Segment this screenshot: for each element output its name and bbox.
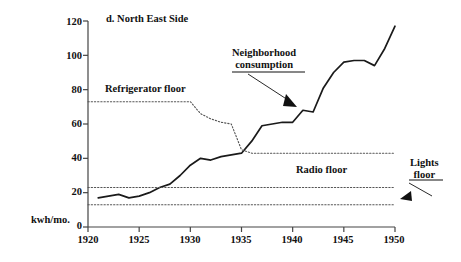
chart-title: d. North East Side <box>106 13 188 24</box>
y-tick-100: 100 <box>52 50 82 61</box>
annotation-neighborhood-consumption: Neighborhood consumption <box>232 47 296 70</box>
x-tick-1920: 1920 <box>68 234 108 245</box>
neighborhood-arrow-head <box>283 94 297 107</box>
y-tick-20: 20 <box>52 186 82 197</box>
y-tick-40: 40 <box>52 152 82 163</box>
annotation-lights-line1: Lights <box>410 157 439 169</box>
x-tick-1945: 1945 <box>323 234 363 245</box>
annotation-refrigerator-floor: Refrigerator floor <box>105 83 186 95</box>
annotation-neighborhood-line2: consumption <box>232 59 296 71</box>
y-axis-unit-label: kwh/mo. <box>31 214 70 225</box>
lights-arrow-shaft <box>409 183 432 196</box>
y-tick-120: 120 <box>52 16 82 27</box>
x-tick-1930: 1930 <box>170 234 210 245</box>
y-tick-80: 80 <box>52 84 82 95</box>
lights-arrow-head <box>400 191 412 201</box>
x-tick-1950: 1950 <box>374 234 414 245</box>
annotation-radio-floor: Radio floor <box>296 164 347 176</box>
annotation-lights-line2: floor <box>410 169 439 181</box>
series-refrigerator-floor <box>88 102 395 153</box>
x-tick-1925: 1925 <box>119 234 159 245</box>
y-tick-60: 60 <box>52 118 82 129</box>
annotation-lights-floor: Lights floor <box>410 157 439 180</box>
annotation-neighborhood-line1: Neighborhood <box>232 47 296 59</box>
x-tick-1940: 1940 <box>272 234 312 245</box>
chart-figure: 120 100 80 60 40 20 0 1920 1925 1930 193… <box>0 0 461 262</box>
neighborhood-arrow-shaft <box>248 74 288 100</box>
x-tick-1935: 1935 <box>221 234 261 245</box>
